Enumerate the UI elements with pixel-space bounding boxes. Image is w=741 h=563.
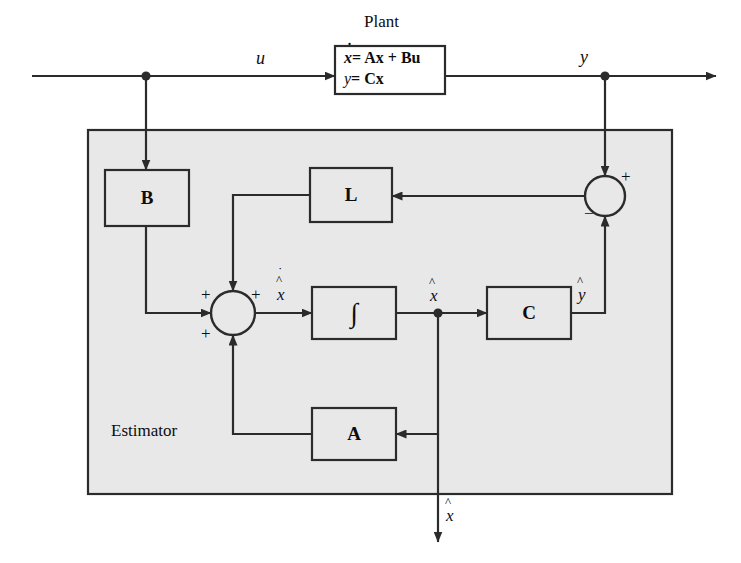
plant-equation-line2: y= Cx [344, 69, 384, 89]
estimator-summer-circle [211, 291, 255, 335]
signal-label-x-hat: x ^ [430, 286, 438, 306]
gain-l-block [310, 168, 392, 222]
estimator-label: Estimator [111, 421, 177, 441]
integrator-block [312, 287, 396, 339]
gain-a-block [312, 408, 396, 460]
summer-sign-plus-top-right: + [251, 286, 261, 303]
gain-b-block [105, 170, 189, 226]
plant-equation-line2-rhs: = Cx [351, 70, 384, 87]
summer-sign-plus-bottom-left: + [201, 325, 211, 342]
signal-label-u: u [256, 48, 265, 69]
signal-label-y-hat: y ^ [578, 285, 586, 305]
error-summer-sign-minus: − [584, 205, 594, 222]
block-diagram: Plant x˙= Ax + Bu y= Cx u y B L ∫ C A + … [0, 0, 741, 563]
gain-c-block [487, 287, 571, 339]
summer-sign-plus-top-left: + [201, 286, 211, 303]
error-summer-sign-plus: + [621, 168, 631, 185]
signal-label-x-hat-output: x ^ [446, 506, 454, 526]
plant-title: Plant [364, 12, 399, 32]
signal-label-x-dot-hat: x ^ ˙ [277, 285, 285, 305]
plant-equation-line1: x˙= Ax + Bu [344, 48, 420, 68]
signal-label-y: y [580, 47, 588, 68]
plant-equation-line1-rhs: = Ax + Bu [352, 49, 420, 66]
